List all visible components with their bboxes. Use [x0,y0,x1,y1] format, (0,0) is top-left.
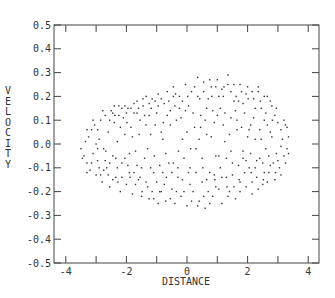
data-point [117,181,118,182]
data-point [154,100,155,101]
data-point [178,150,179,151]
y-tick-label: -0.4 [27,234,51,245]
data-point [235,198,236,199]
data-point [227,196,228,197]
data-point [247,86,248,87]
x-tick-label: -4 [60,266,72,277]
data-points [80,74,289,209]
data-point [151,191,152,192]
data-point [162,139,163,140]
data-point [209,172,210,173]
data-point [215,186,216,187]
data-point [145,124,146,125]
data-point [235,96,236,97]
data-point [185,84,186,85]
data-point [251,172,252,173]
data-point [164,184,165,185]
data-point [166,177,167,178]
data-point [275,172,276,173]
data-point [188,105,189,106]
data-point [221,89,222,90]
data-point [129,153,130,154]
data-point [199,98,200,99]
data-point [136,165,137,166]
data-point [248,167,249,168]
y-tick-label: -0.2 [27,186,51,197]
y-tick-label: -0.5 [27,258,51,269]
x-tick-label: 2 [245,266,251,277]
data-point [95,143,96,144]
data-point [158,105,159,106]
data-point [239,84,240,85]
data-point [114,122,115,123]
data-point [100,120,101,121]
y-axis-title-letter: C [5,127,11,138]
data-point [148,103,149,104]
scatter-chart: 0.50.40.30.20.10.0-0.1-0.2-0.3-0.4-0.5 -… [0,0,335,298]
data-point [254,108,255,109]
data-point [209,203,210,204]
data-point [82,158,83,159]
data-point [121,108,122,109]
data-point [151,98,152,99]
data-point [208,98,209,99]
data-point [120,127,121,128]
data-point [194,86,195,87]
data-point [286,127,287,128]
data-point [273,162,274,163]
data-point [195,148,196,149]
data-point [214,174,215,175]
data-point [236,129,237,130]
data-point [280,174,281,175]
data-point [206,108,207,109]
data-point [115,177,116,178]
data-point [242,150,243,151]
data-point [94,124,95,125]
data-point [265,148,266,149]
data-point [254,139,255,140]
data-point [279,167,280,168]
data-point [226,186,227,187]
data-point [165,153,166,154]
data-point [86,129,87,130]
data-point [98,167,99,168]
data-point [288,153,289,154]
y-axis-title-letter: L [5,106,11,117]
data-point [139,120,140,121]
data-point [214,179,215,180]
data-point [227,84,228,85]
data-point [218,155,219,156]
data-point [254,167,255,168]
data-point [220,108,221,109]
data-point [161,191,162,192]
data-point [138,134,139,135]
data-point [236,120,237,121]
data-point [112,179,113,180]
data-point [121,177,122,178]
data-point [209,79,210,80]
data-point [182,100,183,101]
data-point [164,103,165,104]
data-point [123,117,124,118]
data-point [176,120,177,121]
data-point [208,191,209,192]
data-point [148,115,149,116]
data-point [274,115,275,116]
data-point [151,108,152,109]
data-point [161,98,162,99]
data-point [142,98,143,99]
data-point [86,162,87,163]
data-point [285,124,286,125]
data-point [267,124,268,125]
data-point [229,134,230,135]
data-point [270,100,271,101]
data-point [286,148,287,149]
data-point [282,139,283,140]
data-point [174,203,175,204]
data-point [194,127,195,128]
data-point [168,100,169,101]
data-point [223,86,224,87]
data-point [212,196,213,197]
data-point [135,184,136,185]
data-point [158,203,159,204]
